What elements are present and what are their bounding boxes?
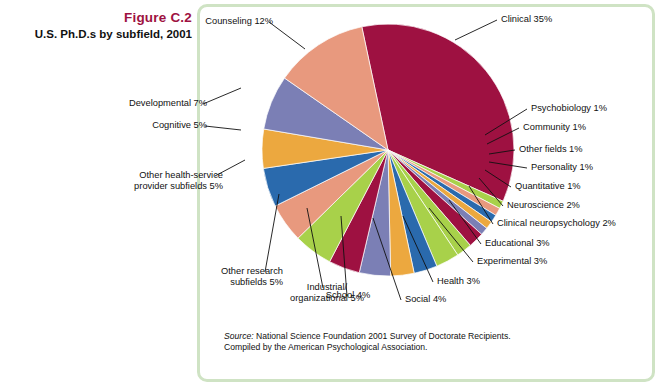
label-neuroscience: Neuroscience 2% — [507, 200, 580, 211]
label-industrial-line1: Industrial/ — [307, 282, 347, 292]
figure-root: Figure C.2 U.S. Ph.D.s by subfield, 2001… — [0, 0, 665, 390]
label-other-research-line2: subfields 5% — [230, 277, 283, 287]
label-cognitive: Cognitive 5% — [129, 120, 207, 131]
label-community: Community 1% — [523, 122, 586, 133]
source-note: Source: National Science Foundation 2001… — [224, 331, 554, 353]
label-clinical: Clinical 35% — [501, 14, 552, 25]
label-personality: Personality 1% — [531, 162, 593, 173]
label-health: Health 3% — [437, 276, 480, 287]
pie-chart-svg: Clinical 35%Psychobiology 1%Community 1%… — [197, 4, 655, 382]
label-industrial-organizational: Industrial/ organizational 5% — [283, 282, 371, 305]
label-other-health-line1: Other health-service — [139, 170, 223, 180]
label-other-fields: Other fields 1% — [519, 144, 583, 155]
label-industrial-line2: organizational 5% — [290, 293, 364, 303]
label-other-research-subfields: Other research subfields 5% — [189, 266, 283, 289]
label-other-health-service-provider-subfields: Other health-service provider subfields … — [105, 170, 223, 193]
label-experimental: Experimental 3% — [477, 256, 547, 267]
label-clinical-neuropsychology: Clinical neuropsychology 2% — [497, 218, 616, 229]
label-quantitative: Quantitative 1% — [515, 181, 581, 192]
label-other-health-line2: provider subfields 5% — [134, 181, 223, 191]
label-counseling: Counseling 12% — [145, 16, 273, 27]
label-other-research-line1: Other research — [221, 266, 283, 276]
label-developmental: Developmental 7% — [93, 98, 207, 109]
source-label: Source: — [224, 331, 254, 341]
label-social: Social 4% — [405, 294, 446, 305]
label-psychobiology: Psychobiology 1% — [531, 103, 607, 114]
source-line2: Compiled by the American Psychological A… — [224, 342, 428, 352]
figure-title: U.S. Ph.D.s by subfield, 2001 — [0, 27, 192, 42]
label-educational: Educational 3% — [485, 238, 550, 249]
pie-chart: Clinical 35%Psychobiology 1%Community 1%… — [197, 4, 655, 382]
pie-slices: Clinical 35%Psychobiology 1%Community 1%… — [262, 24, 514, 276]
source-line1: National Science Foundation 2001 Survey … — [254, 331, 511, 341]
